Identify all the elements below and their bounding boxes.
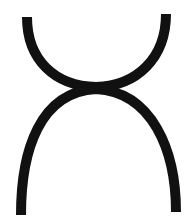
lower-arch-arc: [21, 89, 176, 215]
upper-cup-arc: [27, 14, 166, 87]
cup-and-arch-symbol-icon: [0, 0, 187, 223]
